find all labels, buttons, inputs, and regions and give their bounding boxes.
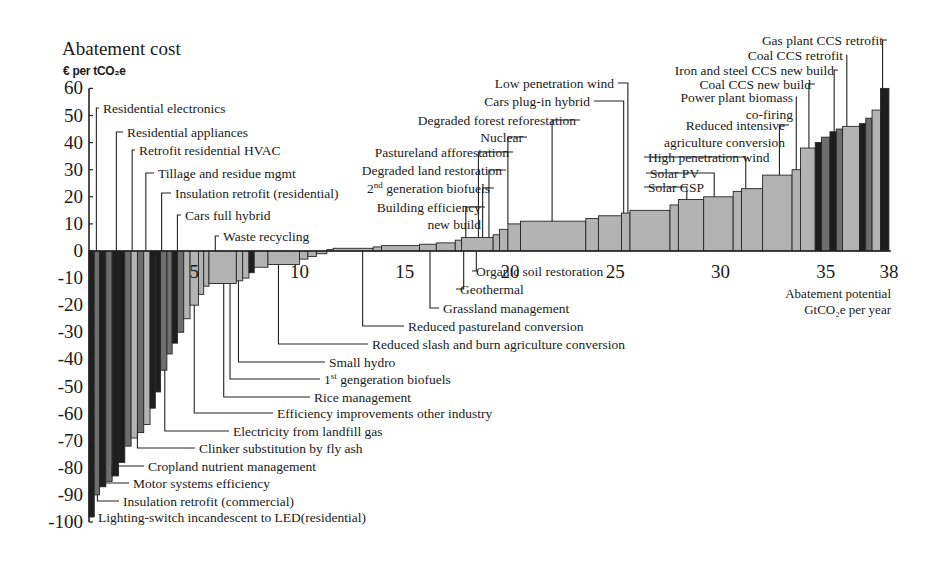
annotation-label: Coal CCS new build <box>700 77 812 92</box>
bar <box>866 118 872 251</box>
leader-line <box>146 173 154 251</box>
bar <box>800 148 815 251</box>
annotation-label: Organic soil restoration <box>476 264 603 279</box>
bar <box>94 251 99 495</box>
bar <box>106 251 112 481</box>
annotation-label: Residential electronics <box>103 101 226 116</box>
bar <box>704 197 733 251</box>
bar <box>131 251 137 438</box>
y-tick-label: -90 <box>58 484 83 505</box>
leader-line <box>177 215 181 251</box>
leader-line <box>489 170 506 237</box>
bar <box>630 210 670 251</box>
annotation-label: Small hydro <box>329 355 396 370</box>
bar <box>382 246 420 251</box>
x-tick-label: 10 <box>290 261 309 282</box>
bar <box>155 251 160 392</box>
y-tick-label: 10 <box>64 213 83 234</box>
bar <box>521 221 586 251</box>
annotation-label: Solar CSP <box>648 180 704 195</box>
bar <box>822 137 830 251</box>
bar <box>493 235 499 251</box>
leader-line <box>96 108 99 251</box>
leader-line <box>162 193 171 251</box>
y-tick-label: -50 <box>58 376 83 397</box>
leader-line <box>809 84 815 148</box>
annotation-label: new build <box>427 217 481 232</box>
y-tick-label: -20 <box>58 294 83 315</box>
leader-line <box>215 236 219 251</box>
bar <box>508 224 521 251</box>
bar <box>843 126 860 251</box>
bar <box>815 143 821 251</box>
leader-line <box>883 40 887 88</box>
leader-line <box>552 120 580 221</box>
leader-line <box>132 150 135 251</box>
x-axis-label-line1: Abatement potential <box>785 286 891 302</box>
y-tick-label: 60 <box>64 77 83 98</box>
y-tick-label: -40 <box>58 348 83 369</box>
bar <box>792 170 800 251</box>
annotation-label: Cars plug-in hybrid <box>484 94 590 109</box>
annotation-label: Power plant biomass <box>681 90 794 105</box>
y-tick-label: -70 <box>58 430 83 451</box>
y-tick-label: -100 <box>48 511 83 532</box>
y-tick-label: 0 <box>74 240 84 261</box>
bar <box>586 218 599 251</box>
bar <box>177 251 183 332</box>
leader-line <box>116 132 123 251</box>
bar <box>125 251 131 446</box>
leader-line <box>594 101 624 213</box>
leader-line <box>796 97 797 170</box>
bar <box>167 251 172 354</box>
bar <box>254 251 268 267</box>
x-tick-label: 5 <box>190 261 200 282</box>
bar <box>161 251 167 370</box>
y-tick-label: 40 <box>64 132 83 153</box>
bar <box>733 191 741 251</box>
annotation-label: Motor systems efficiency <box>133 476 270 491</box>
leader-line <box>834 70 838 132</box>
y-tick-label: -30 <box>58 321 83 342</box>
bar <box>436 243 455 251</box>
bar <box>859 124 865 251</box>
y-tick-label: 30 <box>64 159 83 180</box>
bar <box>678 200 703 251</box>
bar <box>455 240 461 251</box>
bar <box>598 216 621 251</box>
bar <box>172 251 177 343</box>
annotation-label: Low penetration wind <box>495 76 614 91</box>
annotation-label: 1st gengeration biofuels <box>324 371 451 387</box>
annotation-label: Reduced slash and burn agriculture conve… <box>372 337 625 352</box>
leader-line <box>430 251 439 308</box>
bar <box>243 251 249 278</box>
bar <box>300 251 308 259</box>
y-tick-label: 20 <box>64 186 83 207</box>
annotation-label: Pastureland afforestation <box>375 145 510 160</box>
annotation-label: 2nd generation biofuels <box>367 180 490 196</box>
annotation-label: Coal CCS retrofit <box>748 48 843 63</box>
x-tick-label: 25 <box>606 261 625 282</box>
leader-line <box>618 83 628 213</box>
annotation-label: Cars full hybrid <box>185 208 271 223</box>
y-tick-label: -60 <box>58 403 83 424</box>
bar <box>742 189 763 251</box>
leader-line <box>230 284 320 379</box>
x-axis-label: Abatement potential GtCO₂e per year <box>785 286 891 318</box>
annotation-label: Waste recycling <box>223 229 309 244</box>
annotation-label: Gas plant CCS retrofit <box>762 33 883 48</box>
bar <box>872 110 880 251</box>
bar <box>763 175 792 251</box>
annotation-label: Electricity from landfill gas <box>233 424 383 439</box>
x-axis-label-line2: GtCO₂e per year <box>785 302 891 318</box>
plot-area: 6050403020100-10-20-30-40-50-60-70-80-90… <box>0 0 949 564</box>
annotation-label: Rice management <box>314 390 411 405</box>
annotation-label: agriculture conversion <box>664 135 785 150</box>
bar <box>236 251 242 281</box>
x-tick-label: 30 <box>711 261 730 282</box>
abatement-cost-curve-chart: Abatement cost € per tCO₂e 6050403020100… <box>0 0 949 564</box>
annotation-label: Iron and steel CCS new build <box>675 63 835 78</box>
x-tick-label: 35 <box>816 261 835 282</box>
bar <box>880 88 888 251</box>
leader-line <box>238 281 325 362</box>
